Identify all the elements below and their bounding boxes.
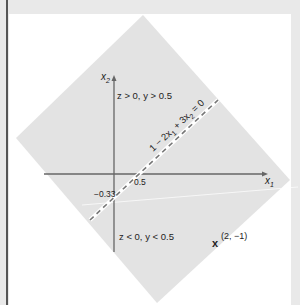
point-coords-label: (2, −1) bbox=[221, 231, 247, 241]
decision-boundary-diagram: x2 x1 0.5 −0.33 z > 0, y > 0.5 z < 0, y … bbox=[0, 0, 300, 305]
x-intercept-label: 0.5 bbox=[134, 177, 146, 187]
figure-frame: x2 x1 0.5 −0.33 z > 0, y > 0.5 z < 0, y … bbox=[0, 0, 300, 305]
upper-region-label: z > 0, y > 0.5 bbox=[117, 90, 172, 101]
point-marker-icon: x bbox=[212, 237, 219, 249]
lower-region-label: z < 0, y < 0.5 bbox=[119, 231, 174, 242]
y-intercept-label: −0.33 bbox=[94, 189, 116, 199]
